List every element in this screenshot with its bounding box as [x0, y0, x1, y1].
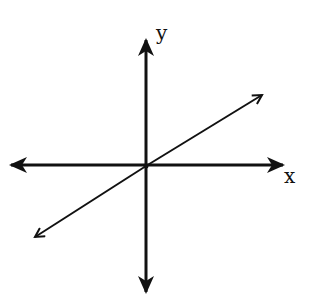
y-axis-label: y — [155, 21, 168, 45]
coordinate-diagram: y x — [0, 0, 309, 299]
x-axis-label: x — [284, 164, 296, 188]
origin-point — [144, 164, 149, 169]
